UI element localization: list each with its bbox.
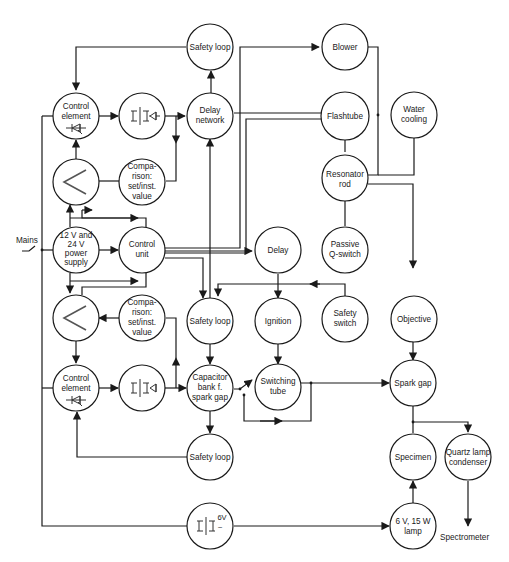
amplifier-bottom-node bbox=[53, 295, 99, 341]
svg-text:Compa-: Compa- bbox=[127, 162, 156, 171]
objective-node: Objective bbox=[391, 296, 437, 342]
svg-text:Quartz lamp: Quartz lamp bbox=[446, 448, 491, 457]
safety-switch-node: Safety switch bbox=[322, 296, 368, 342]
svg-text:set/inst.: set/inst. bbox=[128, 318, 156, 327]
resonator-rod-node: Resonator rod bbox=[322, 155, 368, 201]
svg-text:Ignition: Ignition bbox=[265, 317, 292, 326]
spectrometer-label: Spectrometer bbox=[440, 533, 489, 542]
svg-text:Control: Control bbox=[129, 240, 156, 249]
svg-text:Delay: Delay bbox=[268, 246, 290, 255]
svg-text:Specimen: Specimen bbox=[395, 453, 432, 462]
transformer-rectifier-top-node bbox=[119, 93, 165, 139]
svg-text:element: element bbox=[61, 384, 91, 393]
svg-text:Control: Control bbox=[63, 374, 90, 383]
comparison-top-node: Compa- rison: set/inst. value bbox=[119, 159, 165, 205]
svg-text:Control: Control bbox=[63, 102, 90, 111]
svg-text:Safety loop: Safety loop bbox=[190, 453, 231, 462]
blower-node: Blower bbox=[322, 24, 368, 70]
control-unit-node: Control unit bbox=[119, 227, 165, 273]
svg-text:condenser: condenser bbox=[449, 458, 488, 467]
svg-text:supply: supply bbox=[64, 258, 89, 267]
svg-text:spark gap: spark gap bbox=[192, 393, 228, 402]
delay-node: Delay bbox=[255, 227, 301, 273]
svg-text:12 V and: 12 V and bbox=[60, 231, 93, 240]
transformer-rectifier-bottom-node bbox=[119, 365, 165, 411]
spark-gap-node: Spark gap bbox=[390, 360, 436, 406]
svg-text:bank f.: bank f. bbox=[198, 383, 223, 392]
svg-text:6V: 6V bbox=[217, 513, 226, 522]
svg-text:Blower: Blower bbox=[332, 43, 357, 52]
flashtube-node: Flashtube bbox=[321, 92, 369, 140]
svg-text:Safety loop: Safety loop bbox=[190, 317, 231, 326]
quartz-lamp-condenser-node: Quartz lamp condenser bbox=[445, 434, 491, 480]
svg-text:element: element bbox=[61, 112, 91, 121]
laser-spectrometer-block-diagram: Safety loop Blower Control element Delay… bbox=[0, 0, 509, 562]
comparison-bottom-node: Compa- rison: set/inst. value bbox=[119, 295, 165, 341]
delay-network-node: Delay network bbox=[187, 93, 233, 139]
amplifier-top-node bbox=[53, 159, 99, 205]
svg-text:Switching: Switching bbox=[260, 377, 295, 386]
svg-text:rod: rod bbox=[339, 180, 351, 189]
svg-text:set/inst.: set/inst. bbox=[128, 182, 156, 191]
svg-text:Water: Water bbox=[403, 105, 425, 114]
svg-text:Passive: Passive bbox=[331, 240, 360, 249]
transformer-6v-node: 6V ~ bbox=[187, 503, 233, 549]
svg-text:Spark gap: Spark gap bbox=[394, 379, 432, 388]
svg-text:rison:: rison: bbox=[132, 308, 152, 317]
switching-tube-node: Switching tube bbox=[255, 364, 301, 410]
safety-loop-mid-node: Safety loop bbox=[187, 298, 233, 344]
svg-text:Capacitor: Capacitor bbox=[192, 373, 227, 382]
lamp-node: 6 V, 15 W lamp bbox=[390, 503, 436, 549]
safety-loop-bottom-node: Safety loop bbox=[187, 434, 233, 480]
specimen-node: Specimen bbox=[390, 434, 436, 480]
svg-text:Safety: Safety bbox=[333, 309, 357, 318]
svg-text:value: value bbox=[132, 328, 152, 337]
svg-text:6 V, 15 W: 6 V, 15 W bbox=[395, 517, 430, 526]
svg-text:power: power bbox=[65, 249, 88, 258]
water-cooling-node: Water cooling bbox=[391, 92, 437, 138]
svg-text:Resonator: Resonator bbox=[326, 170, 364, 179]
svg-text:rison:: rison: bbox=[132, 172, 152, 181]
power-supply-node: 12 V and 24 V power supply bbox=[53, 227, 99, 273]
safety-loop-top-node: Safety loop bbox=[187, 24, 233, 70]
control-element-bottom-node: Control element bbox=[53, 365, 99, 411]
svg-text:value: value bbox=[132, 192, 152, 201]
svg-text:Objective: Objective bbox=[397, 315, 432, 324]
svg-text:~: ~ bbox=[218, 523, 223, 532]
mains-label: Mains bbox=[16, 236, 38, 245]
ignition-node: Ignition bbox=[255, 298, 301, 344]
svg-text:Safety loop: Safety loop bbox=[190, 43, 231, 52]
svg-text:tube: tube bbox=[270, 387, 286, 396]
capacitor-bank-node: Capacitor bank f. spark gap bbox=[187, 365, 233, 411]
svg-text:unit: unit bbox=[135, 250, 149, 259]
svg-text:lamp: lamp bbox=[404, 527, 422, 536]
svg-text:network: network bbox=[196, 116, 226, 125]
svg-text:24 V: 24 V bbox=[68, 240, 85, 249]
svg-text:Delay: Delay bbox=[200, 106, 222, 115]
svg-text:Q-switch: Q-switch bbox=[329, 250, 361, 259]
svg-text:Compa-: Compa- bbox=[127, 298, 156, 307]
svg-text:switch: switch bbox=[334, 319, 357, 328]
control-element-top-node: Control element bbox=[53, 93, 99, 139]
svg-text:cooling: cooling bbox=[401, 115, 427, 124]
passive-q-switch-node: Passive Q-switch bbox=[322, 227, 368, 273]
svg-text:Flashtube: Flashtube bbox=[327, 112, 363, 121]
